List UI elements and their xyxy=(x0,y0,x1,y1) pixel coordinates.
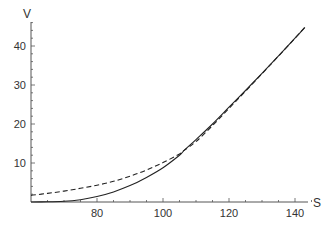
y-axis-label: V xyxy=(23,7,31,21)
x-axis-label: S xyxy=(313,196,321,210)
axes: 8010012014010203040SV xyxy=(14,7,321,219)
x-tick-label: 80 xyxy=(91,207,103,219)
x-tick-label: 100 xyxy=(154,207,172,219)
line-chart: 8010012014010203040SV xyxy=(0,0,333,227)
y-tick-label: 40 xyxy=(14,40,26,52)
dashed-curve xyxy=(31,27,305,195)
y-tick-label: 10 xyxy=(14,157,26,169)
solid-curve xyxy=(31,27,305,202)
y-tick-label: 30 xyxy=(14,79,26,91)
x-tick-label: 140 xyxy=(286,207,304,219)
curves xyxy=(31,27,305,202)
y-tick-label: 20 xyxy=(14,118,26,130)
x-tick-label: 120 xyxy=(220,207,238,219)
